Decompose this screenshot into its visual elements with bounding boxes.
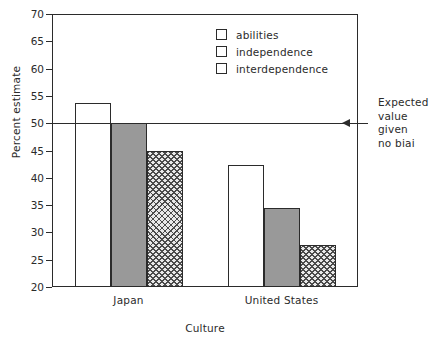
x-group-label: Japan — [52, 294, 205, 306]
bar-united-states-interdependence — [300, 245, 336, 287]
y-tick-label: 40 — [22, 173, 44, 184]
y-tick-label: 25 — [22, 254, 44, 265]
annotation-line-3: given — [378, 123, 438, 137]
x-axis-title: Culture — [52, 322, 358, 334]
y-tick-label: 60 — [22, 63, 44, 74]
expected-value-reference-line — [52, 123, 358, 124]
annotation-line-1: Expected — [378, 96, 438, 110]
bar-japan-interdependence — [147, 151, 183, 288]
y-tick-label: 45 — [22, 145, 44, 156]
bar-united-states-abilities — [228, 165, 264, 287]
legend-label: interdependence — [236, 63, 328, 75]
y-tick-label: 65 — [22, 36, 44, 47]
bar-japan-abilities — [75, 103, 111, 287]
bar-chart: Percent estimate 7065605550454035302520 … — [0, 0, 439, 346]
y-tick-label: 20 — [22, 282, 44, 293]
legend-item-independence: independence — [216, 43, 328, 60]
annotation-line-4: no biai — [378, 137, 438, 151]
legend-label: abilities — [236, 29, 279, 41]
y-axis-title: Percent estimate — [10, 52, 22, 172]
y-tick-mark — [46, 287, 52, 288]
legend-label: independence — [236, 46, 313, 58]
bar-united-states-independence — [264, 208, 300, 287]
y-tick-label: 55 — [22, 91, 44, 102]
legend-swatch-gray-icon — [216, 46, 227, 57]
legend: abilities independence interdependence — [216, 26, 328, 77]
legend-swatch-empty-icon — [216, 29, 227, 40]
legend-item-abilities: abilities — [216, 26, 328, 43]
bar-japan-independence — [111, 123, 147, 287]
legend-swatch-hatched-icon — [216, 63, 227, 74]
y-tick-label: 50 — [22, 118, 44, 129]
expected-value-annotation: Expected value given no biai — [378, 96, 438, 150]
y-tick-label: 35 — [22, 200, 44, 211]
annotation-line-2: value — [378, 110, 438, 124]
reference-arrow-head-icon — [342, 119, 350, 127]
legend-item-interdependence: interdependence — [216, 60, 328, 77]
x-group-label: United States — [205, 294, 358, 306]
y-tick-label: 30 — [22, 227, 44, 238]
y-tick-label: 70 — [22, 9, 44, 20]
